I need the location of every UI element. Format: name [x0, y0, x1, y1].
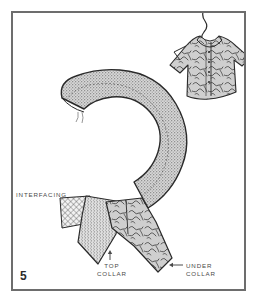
illustration-canvas [0, 0, 258, 304]
figure-number: 5 [20, 269, 27, 283]
patterned-shirt [170, 36, 255, 99]
label-top-collar: TOP COLLAR [97, 262, 127, 279]
arrow-up-icon [108, 250, 112, 260]
arrow-left-icon [169, 263, 183, 267]
figure-container: INTERFACING TOP COLLAR UNDER COLLAR 5 [0, 0, 258, 304]
label-interfacing: INTERFACING [16, 191, 67, 199]
hanger-hook-icon [202, 9, 207, 41]
label-under-collar: UNDER COLLAR [186, 262, 216, 279]
collar-crescent [61, 70, 187, 208]
